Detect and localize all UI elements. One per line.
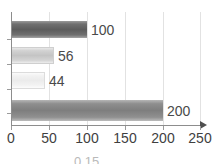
bar-data-label: 44 <box>49 74 65 88</box>
x-axis-tick-label: 200 <box>151 131 174 145</box>
x-axis-arrow-icon <box>200 121 207 129</box>
gridline-250 <box>200 12 201 126</box>
y-axis-tick <box>7 113 11 114</box>
bar-value-100 <box>11 21 87 38</box>
x-axis-tick-label: 150 <box>113 131 136 145</box>
y-axis-tick <box>7 39 11 40</box>
plot-area: 100 56 44 200 <box>11 12 201 126</box>
x-axis-tick-label: 250 <box>188 131 211 145</box>
bar-chart: 100 56 44 200 0 50 100 150 200 250 <box>0 0 213 164</box>
x-axis-line <box>11 125 201 126</box>
clipped-footer-text: 0.15 <box>74 155 99 164</box>
bar-value-44 <box>11 72 45 89</box>
x-axis-tick-label: 0 <box>7 131 15 145</box>
x-axis-tick-label: 50 <box>41 131 57 145</box>
x-axis-tick-label: 100 <box>75 131 98 145</box>
y-axis-line <box>11 12 12 126</box>
bar-data-label: 100 <box>91 23 114 37</box>
gridline-200 <box>163 12 164 126</box>
y-axis-tick <box>7 89 11 90</box>
bar-value-200 <box>11 100 163 121</box>
bar-data-label: 56 <box>58 49 74 63</box>
y-axis-tick <box>7 64 11 65</box>
bar-data-label: 200 <box>167 104 190 118</box>
bar-value-56 <box>11 47 54 64</box>
